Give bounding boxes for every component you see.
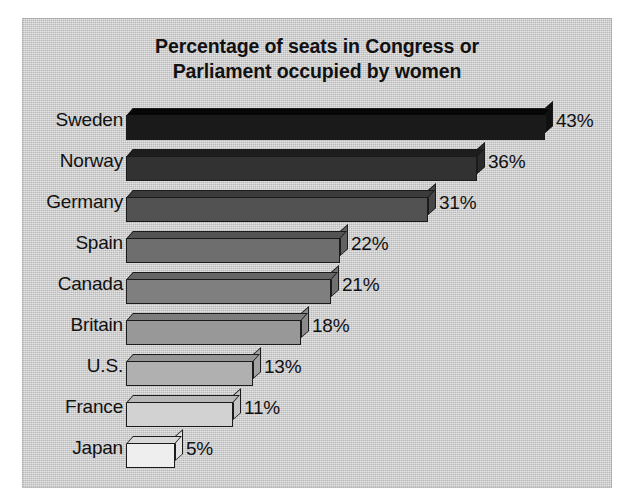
bar-row: Spain22% bbox=[22, 223, 612, 264]
category-label-canada: Canada bbox=[22, 273, 123, 295]
chart-title: Percentage of seats in Congress or Parli… bbox=[22, 34, 612, 85]
bar-row: Britain18% bbox=[22, 305, 612, 346]
bar-front-face bbox=[126, 361, 253, 386]
bar-spain bbox=[126, 231, 340, 256]
bar-side-face bbox=[477, 142, 485, 174]
category-label-france: France bbox=[22, 396, 123, 418]
bar-side-face bbox=[428, 183, 436, 215]
bar-front-face bbox=[126, 238, 340, 263]
bar-top-face bbox=[126, 190, 435, 198]
bar-row: Japan5% bbox=[22, 428, 612, 469]
value-label-britain: 18% bbox=[312, 315, 349, 337]
bar-side-face bbox=[253, 347, 261, 379]
category-label-germany: Germany bbox=[22, 191, 123, 213]
bar-sweden bbox=[126, 108, 545, 133]
bar-row: U.S.13% bbox=[22, 346, 612, 387]
value-label-spain: 22% bbox=[351, 233, 388, 255]
bar-front-face bbox=[126, 443, 175, 468]
bar-side-face bbox=[301, 306, 309, 338]
bar-u-s bbox=[126, 354, 253, 379]
category-label-britain: Britain bbox=[22, 314, 123, 336]
category-label-spain: Spain bbox=[22, 232, 123, 254]
chart-title-line-1: Percentage of seats in Congress or bbox=[22, 34, 612, 59]
category-label-sweden: Sweden bbox=[22, 109, 123, 131]
bar-front-face bbox=[126, 402, 233, 427]
bar-top-face bbox=[126, 436, 182, 444]
bar-france bbox=[126, 395, 233, 420]
category-label-norway: Norway bbox=[22, 150, 123, 172]
bar-side-face bbox=[545, 101, 553, 133]
bar-canada bbox=[126, 272, 331, 297]
value-label-japan: 5% bbox=[186, 438, 213, 460]
bar-front-face bbox=[126, 156, 477, 181]
plot-area: Sweden43%Norway36%Germany31%Spain22%Cana… bbox=[22, 100, 612, 480]
bar-top-face bbox=[126, 108, 552, 116]
bar-top-face bbox=[126, 354, 260, 362]
value-label-canada: 21% bbox=[342, 274, 379, 296]
bar-row: Norway36% bbox=[22, 141, 612, 182]
value-label-u-s: 13% bbox=[264, 356, 301, 378]
bar-top-face bbox=[126, 395, 240, 403]
bar-norway bbox=[126, 149, 477, 174]
bar-side-face bbox=[175, 429, 183, 461]
bar-britain bbox=[126, 313, 301, 338]
bar-germany bbox=[126, 190, 428, 215]
bar-top-face bbox=[126, 272, 338, 280]
bar-row: Sweden43% bbox=[22, 100, 612, 141]
bar-front-face bbox=[126, 115, 545, 140]
value-label-norway: 36% bbox=[488, 151, 525, 173]
chart-panel: Percentage of seats in Congress or Parli… bbox=[22, 18, 612, 488]
bar-top-face bbox=[126, 149, 484, 157]
chart-figure: Percentage of seats in Congress or Parli… bbox=[0, 0, 636, 503]
bar-japan bbox=[126, 436, 175, 461]
bar-row: France11% bbox=[22, 387, 612, 428]
bar-side-face bbox=[340, 224, 348, 256]
bar-top-face bbox=[126, 313, 308, 321]
bar-side-face bbox=[331, 265, 339, 297]
bar-row: Canada21% bbox=[22, 264, 612, 305]
category-label-japan: Japan bbox=[22, 437, 123, 459]
bar-front-face bbox=[126, 320, 301, 345]
bar-front-face bbox=[126, 197, 428, 222]
value-label-germany: 31% bbox=[439, 192, 476, 214]
bar-front-face bbox=[126, 279, 331, 304]
chart-title-line-2: Parliament occupied by women bbox=[22, 59, 612, 84]
category-label-u-s: U.S. bbox=[22, 355, 123, 377]
value-label-sweden: 43% bbox=[556, 110, 593, 132]
bar-side-face bbox=[233, 388, 241, 420]
bar-row: Germany31% bbox=[22, 182, 612, 223]
value-label-france: 11% bbox=[244, 397, 280, 419]
bar-top-face bbox=[126, 231, 347, 239]
